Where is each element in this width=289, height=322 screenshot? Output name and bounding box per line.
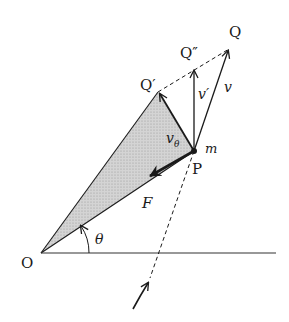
label-m: m — [205, 142, 217, 155]
diagram-svg — [0, 0, 289, 322]
label-theta: θ — [95, 232, 103, 246]
approach-arrow — [133, 283, 148, 309]
label-force: F — [142, 196, 152, 211]
angle-arc — [81, 226, 89, 253]
label-v: v — [224, 80, 232, 94]
label-v-prime: v′ — [198, 87, 209, 101]
label-q-double-prime: Q″ — [180, 46, 198, 61]
diagram-canvas: O P m Q Q″ Q′ v v′ vθ F θ — [0, 0, 289, 322]
label-o: O — [21, 256, 33, 271]
label-p: P — [192, 162, 202, 177]
swept-area — [41, 92, 194, 253]
label-q-prime: Q′ — [140, 78, 156, 93]
label-v-theta: vθ — [166, 131, 179, 149]
point-p — [191, 148, 197, 154]
label-q: Q — [229, 25, 241, 40]
